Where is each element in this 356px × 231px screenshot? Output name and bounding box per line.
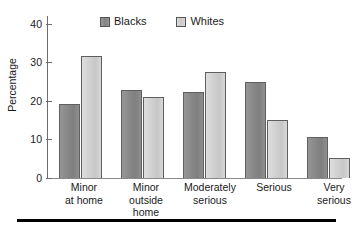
bar-group-0 <box>59 16 102 178</box>
y-tick-label-20: 20 <box>20 94 42 108</box>
y-tick-label-10: 10 <box>20 132 42 146</box>
bar-group-2 <box>183 16 226 178</box>
plot-area: 0 10 20 30 40 <box>47 16 342 178</box>
bar-whites-3[interactable] <box>267 120 288 178</box>
bar-group-1 <box>121 16 164 178</box>
y-tick-label-30: 30 <box>20 55 42 69</box>
bar-group-3 <box>245 16 288 178</box>
y-axis-title: Percentage <box>5 55 19 115</box>
bar-series-container <box>48 16 342 178</box>
y-tick-label-0: 0 <box>20 171 42 185</box>
bar-whites-4[interactable] <box>329 158 350 178</box>
y-tick-0: 0 <box>46 178 52 179</box>
x-label-very-serious: Very serious <box>297 181 356 206</box>
bar-whites-2[interactable] <box>205 72 226 178</box>
bar-whites-0[interactable] <box>81 56 102 178</box>
x-axis-line <box>47 178 342 179</box>
bar-blacks-1[interactable] <box>121 90 142 178</box>
bar-blacks-2[interactable] <box>183 92 204 178</box>
bar-group-4 <box>307 16 350 178</box>
bar-blacks-4[interactable] <box>307 137 328 178</box>
bar-whites-1[interactable] <box>143 97 164 178</box>
bar-blacks-3[interactable] <box>245 82 266 178</box>
bottom-divider-rule <box>17 219 336 222</box>
bar-blacks-0[interactable] <box>59 104 80 178</box>
y-tick-label-40: 40 <box>20 17 42 31</box>
